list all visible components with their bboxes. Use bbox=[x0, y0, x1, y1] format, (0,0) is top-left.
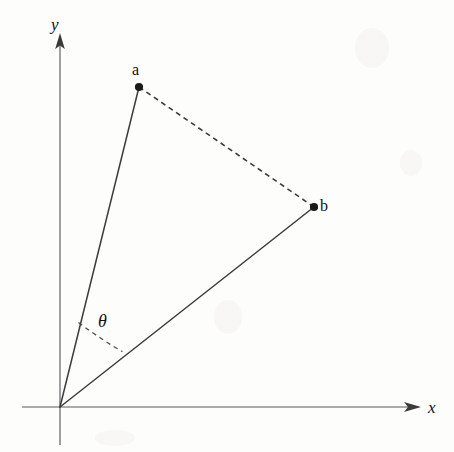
vector-ob bbox=[60, 207, 314, 407]
connector-ab-dashed bbox=[139, 87, 314, 207]
y-axis-label: y bbox=[51, 16, 59, 33]
vector-oa bbox=[60, 87, 139, 407]
point-a-dot bbox=[135, 83, 143, 91]
point-a-label: a bbox=[132, 62, 139, 78]
point-b-dot bbox=[310, 203, 318, 211]
diagram-canvas bbox=[0, 0, 454, 452]
vector-diagram-figure: y x a b θ bbox=[0, 0, 454, 452]
point-b-label: b bbox=[320, 198, 328, 214]
x-axis-label: x bbox=[428, 399, 436, 416]
angle-theta-label: θ bbox=[98, 312, 107, 330]
